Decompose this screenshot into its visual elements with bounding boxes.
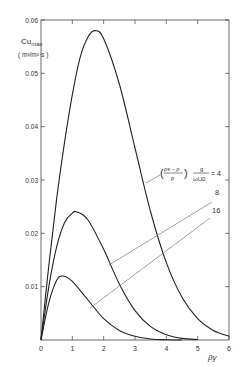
x-tick-label: 6 bbox=[227, 345, 231, 352]
x-tick-label: 2 bbox=[102, 345, 106, 352]
leader-lines bbox=[90, 175, 212, 308]
y-tick-label: 0.01 bbox=[25, 283, 38, 290]
svg-text:): ) bbox=[184, 167, 188, 179]
y-tick-label: 0.04 bbox=[25, 123, 38, 130]
equals-4: = 4 bbox=[211, 170, 221, 177]
y-tick-label: 0.06 bbox=[25, 17, 38, 24]
leader-line-4 bbox=[146, 175, 160, 183]
paren-numerator: ρs − ρ bbox=[164, 166, 179, 172]
curve-16 bbox=[41, 276, 182, 340]
y-axis-label: Cumax bbox=[21, 37, 43, 47]
parameter-annotation: ( ρs − ρ ρ ) g ωU0 = 4 bbox=[160, 166, 221, 182]
x-tick-label: 3 bbox=[133, 345, 137, 352]
y-tick-label: 0.03 bbox=[25, 177, 38, 184]
curve-8 bbox=[41, 211, 198, 340]
series-label-16: 16 bbox=[212, 206, 220, 215]
curve-4 bbox=[41, 31, 229, 340]
paren-denominator: ρ bbox=[171, 175, 174, 181]
series-label-8: 8 bbox=[215, 188, 219, 197]
x-tick-label: 4 bbox=[164, 345, 168, 352]
y-tick-label: 0.02 bbox=[25, 230, 38, 237]
chart: 01234560.010.020.030.040.050.06 Cumax ( … bbox=[0, 0, 245, 367]
leader-line-16 bbox=[90, 218, 210, 308]
x-axis-label: βy bbox=[207, 353, 218, 362]
curves bbox=[41, 31, 229, 340]
x-tick-label: 1 bbox=[70, 345, 74, 352]
frac-numerator: g bbox=[200, 166, 203, 172]
x-tick-label: 0 bbox=[39, 345, 43, 352]
y-axis-units: ( m³/m²·s ) bbox=[18, 51, 48, 59]
x-tick-label: 5 bbox=[196, 345, 200, 352]
axis-ticks: 01234560.010.020.030.040.050.06 bbox=[25, 17, 231, 353]
y-tick-label: 0.05 bbox=[25, 70, 38, 77]
frac-denominator: ωU0 bbox=[193, 176, 206, 182]
